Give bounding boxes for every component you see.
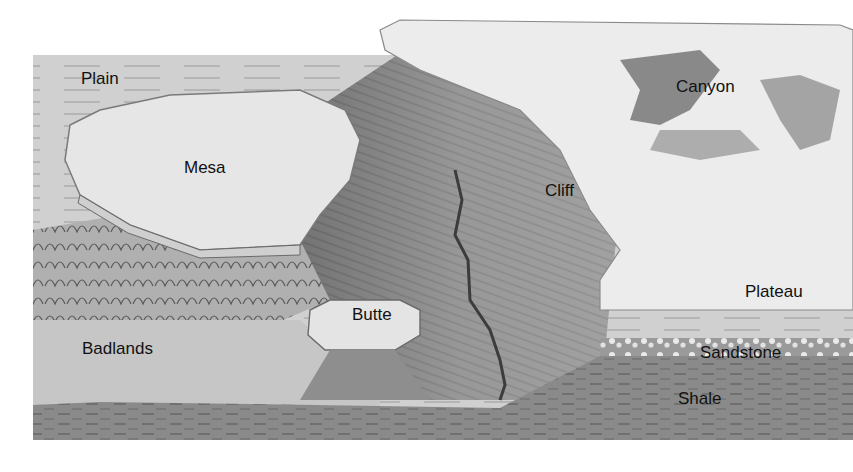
landscape-drawing	[0, 0, 853, 472]
label-sandstone: Sandstone	[700, 344, 781, 361]
label-canyon: Canyon	[676, 78, 735, 95]
label-butte: Butte	[352, 306, 392, 323]
landforms-illustration: Plain Mesa Canyon Cliff Plateau Butte Ba…	[0, 0, 853, 472]
label-plateau: Plateau	[745, 283, 803, 300]
label-cliff: Cliff	[545, 182, 574, 199]
label-shale: Shale	[678, 390, 721, 407]
label-mesa: Mesa	[184, 159, 226, 176]
label-badlands: Badlands	[82, 340, 153, 357]
label-plain: Plain	[81, 70, 119, 87]
